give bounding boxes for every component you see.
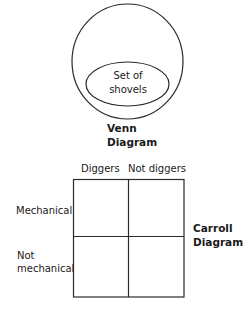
venn-subset-label-line2: shovels: [97, 84, 159, 96]
carroll-row-header-not-mechanical-line2: mechanical: [17, 263, 74, 275]
carroll-column-header-diggers: Diggers: [81, 163, 120, 175]
carroll-title-line1: Carroll: [193, 222, 233, 235]
carroll-title-line2: Diagram: [193, 236, 243, 249]
carroll-column-header-not-diggers: Not diggers: [128, 163, 186, 175]
venn-title-line2: Diagram: [107, 136, 157, 149]
venn-subset-label-line1: Set of: [97, 70, 159, 82]
carroll-row-header-not-mechanical-line1: Not: [17, 250, 35, 262]
venn-title-line1: Venn: [107, 122, 137, 135]
carroll-row-header-mechanical: Mechanical: [16, 205, 72, 217]
